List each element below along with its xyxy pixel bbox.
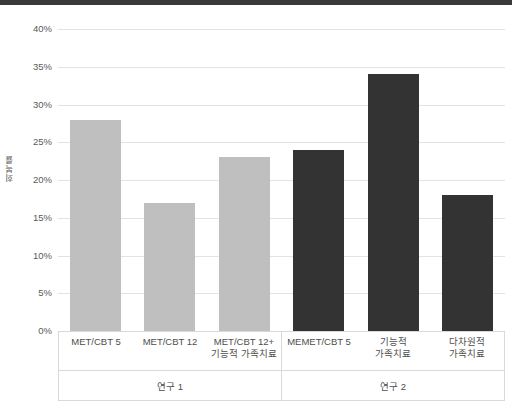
plot-area: 40%35%30%25%20%15%10%5%0% [58, 29, 505, 331]
y-axis-tick-label: 35% [10, 61, 52, 72]
bar[interactable] [219, 157, 270, 331]
category-label: MET/CBT 5 [59, 332, 133, 370]
y-axis-tick-label: 10% [10, 250, 52, 261]
y-axis-tick-label: 25% [10, 136, 52, 147]
y-axis-tick-label: 40% [10, 23, 52, 34]
y-axis-tick-label: 0% [10, 325, 52, 336]
category-label: 기능적 가족치료 [356, 332, 430, 370]
category-label: 다차원적 가족치료 [430, 332, 504, 370]
y-axis-tick-label: 20% [10, 174, 52, 185]
bar-chart: 회복률 40%35%30%25%20%15%10%5%0% MET/CBT 5M… [0, 5, 512, 405]
category-label: MEMET/CBT 5 [281, 332, 356, 370]
category-label: MET/CBT 12 [133, 332, 207, 370]
bar-series [58, 29, 505, 331]
y-axis-tick-label: 15% [10, 212, 52, 223]
bar[interactable] [442, 195, 493, 331]
bar[interactable] [368, 74, 419, 331]
category-label: MET/CBT 12+ 기능적 가족치료 [207, 332, 281, 370]
group-label: 연구 1 [59, 371, 281, 400]
y-axis-tick-label: 5% [10, 287, 52, 298]
group-label: 연구 2 [281, 371, 504, 400]
bar[interactable] [144, 203, 195, 331]
bar[interactable] [70, 120, 121, 331]
group-label-band: 연구 1연구 2 [58, 371, 505, 401]
y-axis-tick-label: 30% [10, 99, 52, 110]
category-label-band: MET/CBT 5MET/CBT 12MET/CBT 12+ 기능적 가족치료M… [58, 331, 505, 371]
bar[interactable] [293, 150, 344, 331]
